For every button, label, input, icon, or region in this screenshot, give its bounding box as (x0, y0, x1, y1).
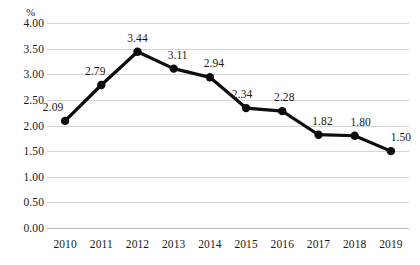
data-point-marker (351, 132, 359, 140)
data-point-marker (97, 81, 105, 89)
data-point-marker (206, 73, 214, 81)
data-point-label: 3.44 (118, 32, 158, 44)
data-point-marker (314, 131, 322, 139)
data-point-label: 2.34 (222, 88, 262, 100)
data-point-marker (133, 48, 141, 56)
x-axis-tick-label: 2019 (369, 238, 413, 251)
plot-area (0, 0, 420, 265)
data-point-label: 3.11 (158, 49, 198, 61)
data-point-label: 1.82 (303, 115, 343, 127)
data-point-marker (387, 147, 395, 155)
data-point-marker (278, 107, 286, 115)
data-point-marker (242, 104, 250, 112)
data-point-label: 1.80 (341, 116, 381, 128)
data-point-label: 1.50 (381, 131, 420, 143)
line-chart: % 4.003.503.002.502.001.501.000.500.00 2… (0, 0, 420, 265)
data-point-label: 2.79 (75, 65, 115, 77)
data-point-marker (170, 64, 178, 72)
data-point-label: 2.09 (33, 101, 73, 113)
data-point-label: 2.94 (194, 57, 234, 69)
data-point-marker (61, 117, 69, 125)
data-point-label: 2.28 (264, 91, 304, 103)
